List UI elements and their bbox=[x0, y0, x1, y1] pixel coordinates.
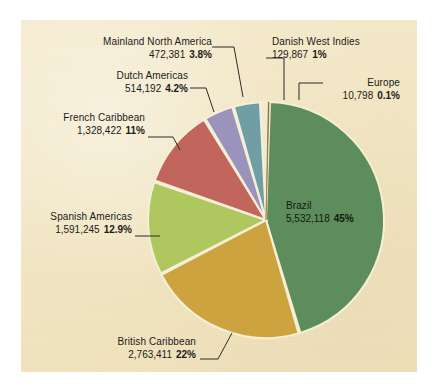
leader-line-dutch-americas bbox=[190, 88, 214, 112]
slice-label-spanish-americas: Spanish Americas 1,591,24512.9% bbox=[8, 211, 132, 236]
leader-line-british-caribbean bbox=[200, 333, 232, 359]
slice-label-british-caribbean: British Caribbean 2,763,41122% bbox=[72, 336, 196, 361]
slice-label-name: British Caribbean bbox=[72, 336, 196, 349]
slice-label-value: 129,867 bbox=[272, 49, 308, 60]
slice-label-value: 514,192 bbox=[125, 83, 161, 94]
slice-label-figures: 2,763,41122% bbox=[72, 349, 196, 362]
slice-label-percent: 4.2% bbox=[165, 83, 188, 94]
slice-label-value: 10,798 bbox=[343, 90, 374, 101]
slice-label-figures: 1,591,24512.9% bbox=[8, 224, 132, 237]
slice-label-danish-west-indies: Danish West Indies 129,8671% bbox=[272, 36, 422, 61]
leader-line-mainland-north-america bbox=[212, 47, 243, 97]
slice-label-value: 1,328,422 bbox=[77, 125, 122, 136]
slice-label-brazil: Brazil 5,532,11845% bbox=[286, 200, 396, 225]
pie-chart-figure: Mainland North America 472,3813.8% Dutch… bbox=[0, 0, 435, 390]
slice-label-name: French Caribbean bbox=[20, 112, 145, 125]
slice-label-value: 472,381 bbox=[149, 49, 185, 60]
slice-label-percent: 11% bbox=[126, 125, 145, 136]
slice-label-europe: Europe 10,7980.1% bbox=[302, 77, 400, 102]
slice-label-value: 1,591,245 bbox=[55, 224, 100, 235]
slice-label-name: Mainland North America bbox=[58, 36, 212, 49]
leader-line-danish-west-indies bbox=[266, 58, 284, 100]
slice-label-figures: 1,328,42211% bbox=[20, 125, 145, 138]
slice-label-percent: 0.1% bbox=[377, 90, 400, 101]
slice-label-value: 5,532,118 bbox=[286, 213, 330, 224]
slice-label-name: Dutch Americas bbox=[52, 70, 188, 83]
slice-label-figures: 10,7980.1% bbox=[302, 90, 400, 103]
slice-label-figures: 5,532,11845% bbox=[286, 213, 396, 226]
slice-label-name: Europe bbox=[302, 77, 400, 90]
slice-label-percent: 22% bbox=[176, 349, 196, 360]
slice-label-name: Brazil bbox=[286, 200, 396, 213]
slice-label-figures: 129,8671% bbox=[272, 49, 422, 62]
slice-label-name: Spanish Americas bbox=[8, 211, 132, 224]
slice-label-figures: 472,3813.8% bbox=[58, 49, 212, 62]
slice-label-percent: 45% bbox=[334, 213, 354, 224]
slice-label-percent: 12.9% bbox=[104, 224, 132, 235]
slice-label-figures: 514,1924.2% bbox=[52, 83, 188, 96]
slice-label-name: Danish West Indies bbox=[272, 36, 422, 49]
slice-label-dutch-americas: Dutch Americas 514,1924.2% bbox=[52, 70, 188, 95]
slice-label-percent: 1% bbox=[312, 49, 326, 60]
slice-label-french-caribbean: French Caribbean 1,328,42211% bbox=[20, 112, 145, 137]
slice-label-value: 2,763,411 bbox=[128, 349, 172, 360]
slice-label-mainland-north-america: Mainland North America 472,3813.8% bbox=[58, 36, 212, 61]
slice-label-percent: 3.8% bbox=[189, 49, 212, 60]
